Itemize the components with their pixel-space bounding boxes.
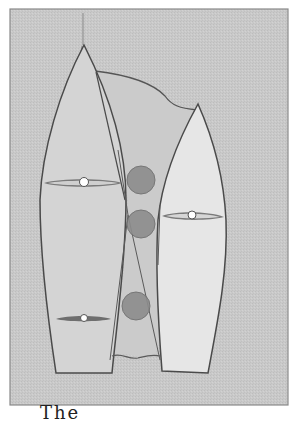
pivot-icon [80, 178, 89, 187]
crew-circle-3 [122, 292, 150, 320]
crew-circle-2 [127, 210, 155, 238]
figure-caption: The [40, 402, 80, 423]
pivot-icon [81, 315, 88, 322]
crew-circle-1 [127, 166, 155, 194]
pivot-icon [188, 211, 196, 219]
